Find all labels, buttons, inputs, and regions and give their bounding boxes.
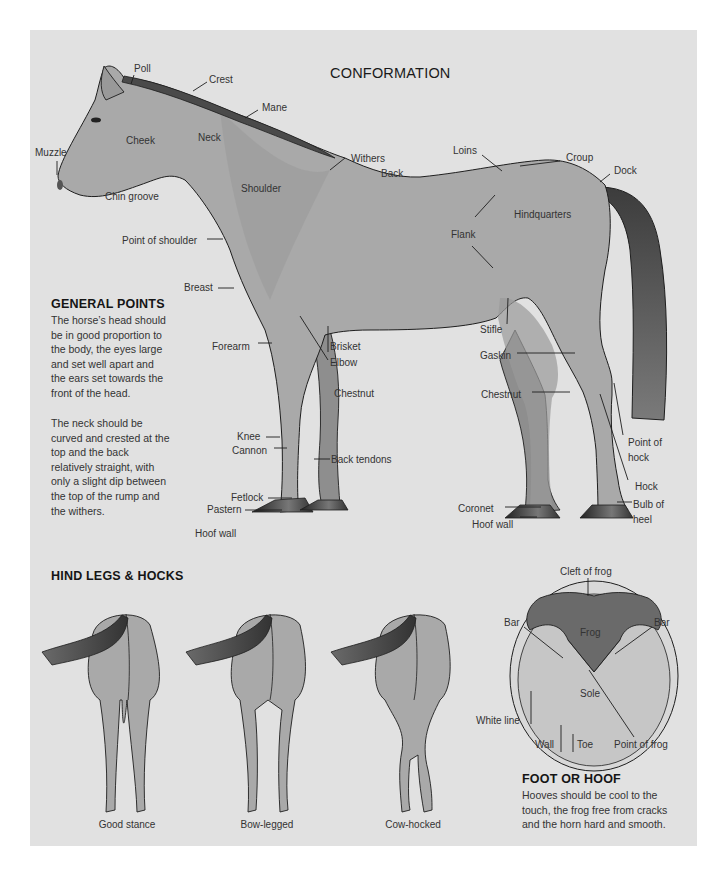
text-line: and the horn hard and smooth. [522, 817, 667, 832]
label-cleft-of-frog: Cleft of frog [560, 566, 612, 578]
label-back: Back [381, 168, 403, 180]
label-bulb-of-heel-line1: Bulb of [633, 499, 664, 511]
general-points-paragraph-2: The neck should be curved and crested at… [51, 416, 170, 518]
label-chin-groove: Chin groove [105, 191, 159, 203]
text-line: touch, the frog free from cracks [522, 803, 667, 818]
label-neck: Neck [198, 132, 221, 144]
label-hock: Hock [635, 481, 658, 493]
label-back-tendons: Back tendons [331, 454, 392, 466]
label-chestnut-front: Chestnut [334, 388, 374, 400]
label-frog: Frog [580, 627, 601, 639]
label-pastern: Pastern [207, 504, 241, 516]
label-muzzle: Muzzle [35, 147, 67, 159]
label-bar-left: Bar [504, 617, 520, 629]
label-mane: Mane [262, 102, 287, 114]
text-line: relatively straight, with [51, 460, 170, 475]
text-line: Hooves should be cool to the [522, 788, 667, 803]
text-line: front of the head. [51, 386, 166, 401]
caption-good-stance: Good stance [87, 819, 167, 830]
label-point-of-hock-line1: Point of [628, 437, 662, 449]
caption-cow-hocked: Cow-hocked [373, 819, 453, 830]
rear-view-good-stance [42, 614, 159, 812]
text-line: only a slight dip between [51, 474, 170, 489]
label-brisket: Brisket [330, 341, 361, 353]
label-point-of-shoulder: Point of shoulder [122, 235, 197, 247]
text-line: The horse’s head should [51, 313, 166, 328]
label-white-line: White line [476, 715, 520, 727]
hind-legs-heading: HIND LEGS & HOCKS [51, 569, 184, 583]
label-chestnut-hind: Chestnut [481, 389, 521, 401]
text-line: curved and crested at the [51, 431, 170, 446]
label-knee: Knee [237, 431, 260, 443]
label-loins: Loins [453, 145, 477, 157]
text-line: the ears set towards the [51, 371, 166, 386]
foot-or-hoof-heading: FOOT OR HOOF [522, 772, 621, 786]
text-line: and set well apart and [51, 357, 166, 372]
label-cannon: Cannon [232, 445, 267, 457]
label-point-of-frog: Point of frog [614, 739, 668, 751]
text-line: the top of the rump and [51, 489, 170, 504]
text-line: the withers. [51, 504, 170, 519]
caption-bow-legged: Bow-legged [227, 819, 307, 830]
label-hindquarters: Hindquarters [514, 209, 571, 221]
label-flank: Flank [451, 229, 475, 241]
label-bulb-of-heel-line2: heel [633, 514, 652, 526]
text-line: The neck should be [51, 416, 170, 431]
label-forearm: Forearm [212, 341, 250, 353]
text-line: top and the back [51, 445, 170, 460]
label-fetlock: Fetlock [231, 492, 263, 504]
label-gaskin: Gaskin [480, 350, 511, 362]
label-croup: Croup [566, 152, 593, 164]
general-points-paragraph-1: The horse’s head should be in good propo… [51, 313, 166, 401]
label-breast: Breast [184, 282, 213, 294]
rear-view-bow-legged [186, 614, 305, 812]
label-withers: Withers [351, 153, 385, 165]
label-dock: Dock [614, 165, 637, 177]
label-shoulder: Shoulder [241, 183, 281, 195]
rear-view-cow-hocked [331, 614, 450, 812]
label-cheek: Cheek [126, 135, 155, 147]
label-wall: Wall [535, 739, 554, 751]
text-line: be in good proportion to [51, 328, 166, 343]
foot-or-hoof-paragraph: Hooves should be cool to the touch, the … [522, 788, 667, 832]
label-elbow: Elbow [330, 357, 357, 369]
label-hoof-wall-hind: Hoof wall [472, 519, 513, 531]
label-hoof-wall-front: Hoof wall [195, 528, 236, 540]
label-coronet: Coronet [458, 503, 494, 515]
text-line: the body, the eyes large [51, 342, 166, 357]
label-toe: Toe [577, 739, 593, 751]
label-stifle: Stifle [480, 324, 502, 336]
label-bar-right: Bar [654, 617, 670, 629]
page-title: CONFORMATION [330, 65, 451, 81]
label-crest: Crest [209, 74, 233, 86]
label-poll: Poll [134, 63, 151, 75]
label-sole: Sole [580, 688, 600, 700]
general-points-heading: GENERAL POINTS [51, 297, 165, 311]
label-point-of-hock-line2: hock [628, 452, 649, 464]
